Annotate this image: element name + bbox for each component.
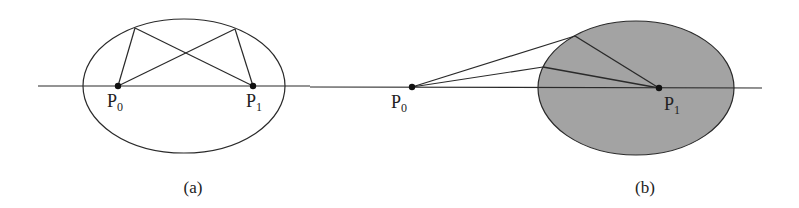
panel-a: P0 P1 (a) xyxy=(38,19,310,197)
ray-a-p0-top-right xyxy=(118,29,235,86)
ray-b-p0-lower xyxy=(412,67,543,87)
panel-b: P0 P1 (b) xyxy=(310,21,762,197)
point-b-p0 xyxy=(409,84,415,90)
ray-a-p1-top-left xyxy=(135,28,253,86)
caption-a: (a) xyxy=(184,178,203,197)
label-a-p0: P0 xyxy=(107,91,123,114)
figure: P0 P1 (a) P0 P1 (b) xyxy=(0,0,799,208)
point-a-p0 xyxy=(115,83,121,89)
point-a-p1 xyxy=(250,83,256,89)
point-b-p1 xyxy=(656,85,662,91)
ray-a-p1-top-right xyxy=(235,29,253,86)
ray-a-p0-top-left xyxy=(118,28,135,86)
diagram-canvas: P0 P1 (a) P0 P1 (b) xyxy=(0,0,799,208)
label-b-p0: P0 xyxy=(391,92,407,115)
label-a-p1: P1 xyxy=(246,91,262,114)
caption-b: (b) xyxy=(635,178,655,197)
